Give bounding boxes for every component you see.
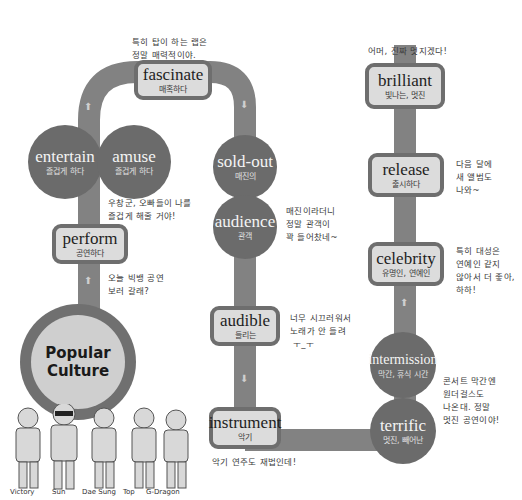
node-audience-en: audience [215, 213, 275, 231]
note-amuse: 우창군, 오빠들이 나를 즐겁게 해줄 거야! [108, 197, 192, 223]
member-name: Victory [10, 488, 34, 496]
node-release-en: release [382, 161, 429, 179]
node-amuse-en: amuse [112, 148, 155, 166]
arrow-up-icon: ⬆ [400, 298, 408, 308]
node-fascinate-ko: 매혹하다 [159, 84, 187, 95]
member-name: Sun [52, 488, 65, 496]
node-sold-out: sold-out 매진의 [213, 135, 277, 199]
node-brilliant: brilliant 빛나는, 멋진 [365, 63, 445, 109]
node-intermission: intermission 막간, 휴식 시간 [370, 332, 436, 398]
node-sold-out-ko: 매진의 [235, 171, 256, 182]
hub-inner: Popular Culture [31, 315, 125, 409]
member-name: G-Dragon [146, 488, 180, 496]
note-instrument: 악기 연주도 재법인데! [212, 456, 296, 469]
node-release: release 출시하다 [368, 153, 444, 197]
node-audience: audience 관객 [213, 195, 277, 259]
node-instrument-ko: 악기 [238, 432, 252, 443]
arrow-down-icon: ⬇ [240, 374, 248, 384]
band-illustration [6, 404, 202, 500]
node-release-ko: 출시하다 [392, 179, 420, 190]
node-entertain-en: entertain [35, 148, 94, 166]
node-audible-en: audible [220, 312, 270, 330]
note-intermission: 콘서트 막간엔 원더걸스도 나온대. 정말 멋진 공연이야! [443, 375, 500, 427]
node-perform: perform 공연하다 [52, 224, 128, 264]
node-entertain: entertain 즐겁게 하다 [28, 125, 102, 199]
node-fascinate-en: fascinate [143, 66, 203, 84]
node-perform-en: perform [63, 230, 118, 248]
node-perform-ko: 공연하다 [76, 248, 104, 259]
node-terrific-ko: 멋진, 빼어난 [383, 435, 423, 446]
node-audible-ko: 들리는 [235, 330, 256, 341]
note-audience: 매진이라더니 정말 관객이 꽉 들어찼네~ [286, 205, 338, 244]
node-intermission-ko: 막간, 휴식 시간 [378, 369, 428, 380]
note-celebrity: 특히 대성은 연예인 같지 않아서 더 좋아, 하하! [456, 245, 515, 297]
node-celebrity-en: celebrity [376, 250, 435, 268]
node-brilliant-ko: 빛나는, 멋진 [385, 90, 425, 101]
arrow-up-icon: ⬆ [84, 102, 92, 112]
node-entertain-ko: 즐겁게 하다 [46, 166, 84, 177]
member-name: Dae Sung [82, 488, 116, 496]
arrow-up-icon: ⬆ [84, 276, 92, 286]
node-brilliant-en: brilliant [378, 72, 432, 90]
node-terrific-en: terrific [380, 417, 426, 435]
hub-line2: Culture [47, 362, 109, 380]
arrow-down-icon: ⬇ [240, 100, 248, 110]
popular-culture-vocabulary-map: ⬆ ⬇ ⬆ ⬇ ⬆ ⬆ entertain 즐겁게 하다 amuse 즐겁게 하… [0, 0, 522, 500]
node-instrument: instrument 악기 [209, 407, 281, 449]
node-audible: audible 들리는 [210, 306, 280, 346]
note-brilliant: 어머, 진짜 멋지겠다! [368, 45, 447, 58]
node-instrument-en: instrument [209, 414, 282, 432]
note-audible: 너무 시끄러워서 노래가 안 들려 ㅜ_ㅜ [290, 312, 351, 351]
member-name: Top [123, 488, 135, 496]
node-celebrity: celebrity 유명인, 연예인 [368, 242, 444, 286]
hub-popular-culture: Popular Culture [20, 304, 136, 420]
node-intermission-en: intermission [368, 351, 437, 369]
note-perform: 오늘 빅뱅 공연 보러 갈래? [108, 272, 164, 298]
hub-line1: Popular [45, 344, 110, 362]
note-fascinate: 특히 탑이 하는 랩은 정말 매력적이야. [132, 36, 207, 62]
node-terrific: terrific 멋진, 빼어난 [370, 398, 436, 464]
node-fascinate: fascinate 매혹하다 [134, 60, 212, 100]
node-amuse: amuse 즐겁게 하다 [97, 125, 171, 199]
band-members-figures [6, 404, 202, 494]
node-sold-out-en: sold-out [217, 153, 273, 171]
note-release: 다음 달에 새 앨범도 나와~ [456, 158, 492, 197]
node-celebrity-ko: 유명인, 연예인 [382, 268, 429, 279]
node-amuse-ko: 즐겁게 하다 [115, 166, 153, 177]
node-audience-ko: 관객 [238, 231, 252, 242]
